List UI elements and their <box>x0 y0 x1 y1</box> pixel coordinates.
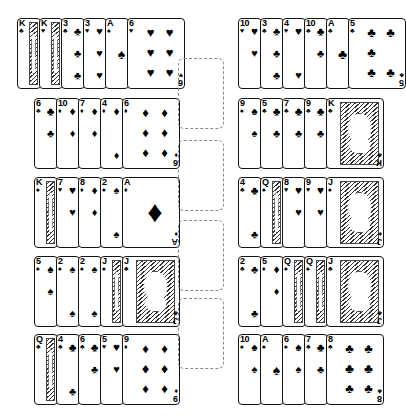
card-8-club[interactable]: 8♣♣♣♣♣♣♣♣♣8♣ <box>326 334 384 405</box>
card-A-club[interactable]: A♣♣ <box>326 18 350 89</box>
card-pip-heart-icon: ♥ <box>251 26 258 37</box>
card-Q-spade[interactable]: Q♠ <box>260 177 284 248</box>
card-5-club[interactable]: 5♣♣♣♣ <box>260 98 284 169</box>
right-tableau-pile-4[interactable]: 2♣♣♣5♦♦♦♦Q♠Q♠J♣J♣ <box>238 256 384 327</box>
card-corner-index-top: 6♥ <box>129 19 141 34</box>
card-corner-index-bottom: J♣ <box>370 310 382 325</box>
card-2-spade[interactable]: 2♠♠♠ <box>56 256 80 327</box>
card-7-club[interactable]: 7♣♣♣♣ <box>304 334 328 405</box>
card-8-diamond[interactable]: 8♦♦♦♦ <box>78 177 102 248</box>
card-5-club[interactable]: 5♣♣♣♣♣♣5♣ <box>348 18 406 89</box>
card-4-diamond[interactable]: 4♦♦♦♦ <box>100 98 124 169</box>
card-7-diamond[interactable]: 7♦♦♦♦ <box>78 98 102 169</box>
card-pip-club-icon: ♣ <box>317 342 324 353</box>
card-rank: J <box>370 237 382 246</box>
empty-card-slot-3[interactable] <box>178 220 224 291</box>
card-4-heart[interactable]: 4♥♥♥♥ <box>282 18 306 89</box>
left-tableau-pile-5[interactable]: Q♣4♣♣♣♣6♣♣♣♣5♥♥♥♥9♦♦♦♦♦♦♦♦♦♦9♦ <box>34 334 180 405</box>
card-pip-field: ♥♥♥ <box>68 180 77 245</box>
card-K-spade[interactable]: K♠ <box>34 177 58 248</box>
court-card-artwork <box>294 260 303 323</box>
card-4-club[interactable]: 4♣♣♣♣ <box>238 177 262 248</box>
card-10-heart[interactable]: 10♥♥♥♥ <box>238 18 262 89</box>
card-pip-field: ♥♥♥ <box>316 180 325 245</box>
card-Q-spade[interactable]: Q♠ <box>304 256 328 327</box>
card-3-club[interactable]: 3♣♣♣♣ <box>61 18 85 89</box>
card-pip-field: ♣♣♣ <box>316 21 325 86</box>
right-tableau-pile-3[interactable]: 4♣♣♣♣Q♠8♥♥♥♥9♥♥♥♥J♠J♠ <box>238 177 384 248</box>
right-tableau-pile-1[interactable]: 10♥♥♥♥3♣♣♣♣4♥♥♥♥10♣♣♣♣A♣♣5♣♣♣♣♣♣5♣ <box>238 18 406 89</box>
left-tableau-pile-4[interactable]: 5♠♠♠♠2♠♠♠2♠♠♠J♠J♣J♣ <box>34 256 180 327</box>
card-5-diamond[interactable]: 5♦♦♦♦ <box>260 256 284 327</box>
card-pip-diamond-icon: ♦ <box>142 126 149 139</box>
card-suit-club-icon: ♣ <box>328 343 340 350</box>
card-4-club[interactable]: 4♣♣♣♣ <box>56 334 80 405</box>
empty-card-slot-4[interactable] <box>178 298 224 369</box>
card-K-club[interactable]: K♣ <box>17 18 41 89</box>
card-rank: K <box>370 158 382 167</box>
card-8-heart[interactable]: 8♥♥♥♥ <box>282 177 306 248</box>
card-J-club[interactable]: J♣J♣ <box>326 256 384 327</box>
card-pip-club-icon: ♣ <box>317 106 324 117</box>
card-pip-club-icon: ♣ <box>74 48 81 59</box>
card-pip-diamond-icon: ♦ <box>114 150 120 161</box>
card-pip-club-icon: ♣ <box>251 308 258 319</box>
card-pip-spade-icon: ♠ <box>114 229 120 240</box>
card-pip-heart-icon: ♥ <box>69 185 76 196</box>
card-rank: J <box>370 316 382 325</box>
card-corner-index-top: J♣ <box>328 257 340 272</box>
card-pip-heart-icon: ♥ <box>113 342 120 353</box>
court-card-artwork <box>272 181 281 244</box>
card-6-club[interactable]: 6♣♣♣♣ <box>34 98 58 169</box>
card-7-heart[interactable]: 7♥♥♥♥ <box>56 177 80 248</box>
card-pip-diamond-icon: ♦ <box>142 146 149 159</box>
card-5-heart[interactable]: 5♥♥♥♥ <box>100 334 124 405</box>
card-Q-club[interactable]: Q♣ <box>34 334 58 405</box>
card-pip-club-icon: ♣ <box>386 26 395 39</box>
card-3-heart[interactable]: 3♥♥♥♥ <box>83 18 107 89</box>
card-5-spade[interactable]: 5♠♠♠♠ <box>34 256 58 327</box>
card-pip-club-icon: ♣ <box>69 342 76 353</box>
card-J-spade[interactable]: J♠J♠ <box>326 177 384 248</box>
card-pip-heart-icon: ♥ <box>147 26 155 39</box>
card-pip-club-icon: ♣ <box>295 106 302 117</box>
card-9-spade[interactable]: 9♠♠♠♠ <box>238 98 262 169</box>
card-10-club[interactable]: 10♣♣♣♣ <box>304 18 328 89</box>
card-3-club[interactable]: 3♣♣♣♣ <box>260 18 284 89</box>
card-A-spade[interactable]: A♠♠ <box>260 334 284 405</box>
card-9-club[interactable]: 9♣♣♣♣ <box>304 98 328 169</box>
card-2-spade[interactable]: 2♠♠♠ <box>100 177 124 248</box>
card-pip-heart-icon: ♥ <box>295 185 302 196</box>
right-tableau-pile-5[interactable]: 10♠♠♠♠A♠♠6♠♠♠♠7♣♣♣♣8♣♣♣♣♣♣♣♣♣8♣ <box>238 334 384 405</box>
card-10-diamond[interactable]: 10♦♦♦♦ <box>56 98 80 169</box>
card-pip-diamond-icon: ♦ <box>142 342 149 355</box>
card-2-spade[interactable]: 2♠♠♠ <box>78 256 102 327</box>
card-A-spade[interactable]: A♠♠ <box>105 18 129 89</box>
card-2-club[interactable]: 2♣♣♣ <box>238 256 262 327</box>
left-tableau-pile-3[interactable]: K♠7♥♥♥♥8♦♦♦♦2♠♠♠A♦♦A♦ <box>34 177 180 248</box>
card-pip-spade-icon: ♠ <box>252 106 258 117</box>
left-tableau-pile-1[interactable]: K♣K♥3♣♣♣♣3♥♥♥♥A♠♠6♥♥♥♥♥♥♥6♥ <box>17 18 185 89</box>
empty-card-slot-1[interactable] <box>178 58 224 129</box>
card-Q-spade[interactable]: Q♠ <box>282 256 306 327</box>
card-suit-diamond-icon: ♦ <box>124 343 136 350</box>
card-7-club[interactable]: 7♣♣♣♣ <box>282 98 306 169</box>
card-pip-field: ♥♥♥ <box>250 21 259 86</box>
left-tableau-pile-2[interactable]: 6♣♣♣♣10♦♦♦♦7♦♦♦♦4♦♦♦♦6♦♦♦♦♦♦♦6♦ <box>34 98 180 169</box>
card-J-spade[interactable]: J♠ <box>100 256 124 327</box>
card-pip-spade-icon: ♠ <box>252 128 258 139</box>
card-6-club[interactable]: 6♣♣♣♣ <box>78 334 102 405</box>
card-pip-club-icon: ♣ <box>317 128 324 139</box>
right-tableau-pile-2[interactable]: 9♠♠♠♠5♣♣♣♣7♣♣♣♣9♣♣♣♣K♣K♣ <box>238 98 384 169</box>
empty-card-slot-2[interactable] <box>178 140 224 211</box>
card-K-club[interactable]: K♣K♣ <box>326 98 384 169</box>
card-10-spade[interactable]: 10♠♠♠♠ <box>238 334 262 405</box>
card-6-spade[interactable]: 6♠♠♠♠ <box>282 334 306 405</box>
court-card-artwork <box>112 260 121 323</box>
card-pip-club-icon: ♣ <box>338 47 347 61</box>
card-pip-heart-icon: ♥ <box>317 185 324 196</box>
card-suit-diamond-icon: ♦ <box>124 107 136 114</box>
card-K-heart[interactable]: K♥ <box>39 18 63 89</box>
card-pip-field: ♠♠♠ <box>250 337 259 402</box>
card-9-heart[interactable]: 9♥♥♥♥ <box>304 177 328 248</box>
